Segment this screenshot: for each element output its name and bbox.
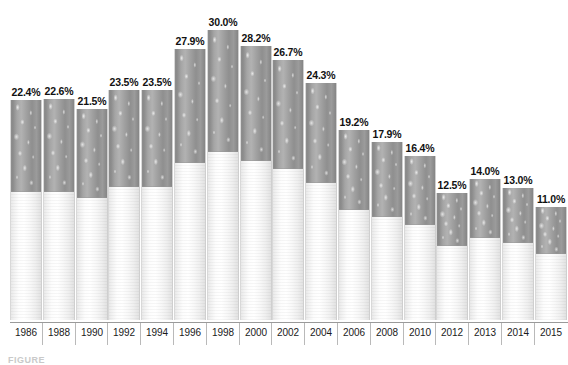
bar-1990 [76, 109, 108, 320]
x-axis-separator [75, 323, 76, 345]
bar-tobacco-segment [175, 49, 205, 163]
bar-paper-segment [273, 169, 303, 320]
x-axis-separator [435, 323, 436, 345]
bar-seam-line [405, 224, 435, 225]
bar-seam-line [109, 186, 139, 187]
x-axis-separator [239, 323, 240, 345]
bar-tobacco-segment [339, 130, 369, 210]
bar-group-2014: 13.0% [502, 0, 534, 320]
x-tick-label-2006: 2006 [338, 327, 370, 338]
x-axis-separator [107, 323, 108, 345]
bar-paper-segment [437, 246, 467, 320]
x-tick-label-1986: 1986 [10, 327, 42, 338]
bar-tobacco-segment [437, 193, 467, 246]
bar-paper-segment [11, 192, 41, 320]
x-tick-label-2002: 2002 [272, 327, 304, 338]
bar-2002 [272, 60, 304, 320]
bar-group-1990: 21.5% [76, 0, 108, 320]
bar-seam-line [470, 237, 500, 238]
bar-tobacco-segment [109, 90, 139, 187]
bar-group-2008: 17.9% [371, 0, 403, 320]
x-tick-label-1996: 1996 [174, 327, 206, 338]
bar-paper-segment [536, 254, 566, 320]
bar-1986 [10, 100, 42, 320]
bar-2010 [404, 156, 436, 320]
bar-seam-line [536, 253, 566, 254]
x-tick-label-2000: 2000 [240, 327, 272, 338]
x-axis-separator [140, 323, 141, 345]
x-tick-label-2012: 2012 [436, 327, 468, 338]
bar-seam-line [503, 242, 533, 243]
x-axis-separator [206, 323, 207, 345]
bar-tobacco-segment [142, 90, 172, 187]
bar-tobacco-segment [273, 60, 303, 169]
x-axis-separator [304, 323, 305, 345]
cigarette-bar-chart: 22.4%22.6%21.5%23.5%23.5%27.9%30.0%28.2%… [0, 0, 568, 365]
bar-2014 [502, 188, 534, 320]
x-tick-label-1990: 1990 [76, 327, 108, 338]
bar-2004 [305, 83, 337, 320]
bar-group-2006: 19.2% [338, 0, 370, 320]
bar-tobacco-segment [372, 142, 402, 217]
bar-tobacco-segment [470, 179, 500, 238]
bar-value-label-2012: 12.5% [438, 179, 467, 191]
bar-value-label-2013: 14.0% [471, 165, 500, 177]
bar-paper-segment [372, 217, 402, 320]
bar-value-label-2014: 13.0% [504, 174, 533, 186]
plot-area: 22.4%22.6%21.5%23.5%23.5%27.9%30.0%28.2%… [10, 0, 568, 320]
x-tick-label-1988: 1988 [43, 327, 75, 338]
bar-group-1994: 23.5% [141, 0, 173, 320]
bar-tobacco-segment [241, 46, 271, 161]
x-axis-separator [337, 323, 338, 345]
bar-paper-segment [503, 243, 533, 320]
bar-value-label-2002: 26.7% [274, 46, 303, 58]
bar-tobacco-segment [405, 156, 435, 225]
bar-group-2010: 16.4% [404, 0, 436, 320]
x-axis-separator [403, 323, 404, 345]
bar-seam-line [175, 162, 205, 163]
bar-value-label-1990: 21.5% [78, 95, 107, 107]
bar-paper-segment [44, 192, 74, 320]
bar-tobacco-segment [503, 188, 533, 243]
bar-group-1986: 22.4% [10, 0, 42, 320]
bar-value-label-1988: 22.6% [45, 85, 74, 97]
bar-1992 [108, 90, 140, 320]
x-tick-label-2013: 2013 [469, 327, 501, 338]
x-axis: 1986198819901992199419961998200020022004… [10, 322, 568, 344]
x-axis-separator [173, 323, 174, 345]
x-axis-separator [534, 323, 535, 345]
bar-seam-line [142, 186, 172, 187]
bar-seam-line [208, 151, 238, 152]
figure-caption: FIGURE [8, 355, 45, 365]
x-tick-label-2015: 2015 [535, 327, 567, 338]
bar-paper-segment [208, 152, 238, 320]
bar-value-label-1992: 23.5% [110, 76, 139, 88]
bar-group-2013: 14.0% [469, 0, 501, 320]
x-tick-label-2010: 2010 [404, 327, 436, 338]
bar-seam-line [437, 245, 467, 246]
bar-value-label-2006: 19.2% [340, 116, 369, 128]
x-tick-label-1994: 1994 [141, 327, 173, 338]
bar-tobacco-segment [536, 207, 566, 254]
bar-2012 [436, 193, 468, 320]
bar-value-label-1994: 23.5% [143, 76, 172, 88]
bar-paper-segment [77, 198, 107, 320]
bar-paper-segment [241, 161, 271, 320]
x-tick-label-1992: 1992 [108, 327, 140, 338]
bar-seam-line [241, 160, 271, 161]
bar-seam-line [273, 168, 303, 169]
bar-value-label-2000: 28.2% [242, 32, 271, 44]
bar-paper-segment [339, 210, 369, 320]
bar-group-1992: 23.5% [108, 0, 140, 320]
bar-2013 [469, 179, 501, 320]
bar-2000 [240, 46, 272, 320]
bar-tobacco-segment [11, 100, 41, 192]
bar-group-2004: 24.3% [305, 0, 337, 320]
bar-seam-line [77, 197, 107, 198]
bar-group-2000: 28.2% [240, 0, 272, 320]
bar-paper-segment [142, 187, 172, 320]
bar-value-label-1998: 30.0% [209, 16, 238, 28]
bar-paper-segment [306, 183, 336, 320]
bar-paper-segment [405, 225, 435, 320]
bar-value-label-2008: 17.9% [373, 128, 402, 140]
